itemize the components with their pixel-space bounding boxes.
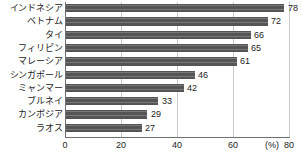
bar-row: ラオス 27 xyxy=(0,122,302,135)
bar-row: ベトナム 72 xyxy=(0,15,302,28)
bar-row: マレーシア 61 xyxy=(0,55,302,68)
bar-row: インドネシア 78 xyxy=(0,2,302,15)
bar-value-label: 42 xyxy=(187,82,197,95)
bar xyxy=(66,97,158,105)
bar-value-label: 78 xyxy=(288,2,298,15)
bar-value-label: 27 xyxy=(145,122,155,135)
category-label: フィリピン xyxy=(18,42,63,55)
bar-chart: インドネシア 78 ベトナム 72 タイ 66 フィリピン 65 マレーシア 6… xyxy=(0,0,302,157)
bar xyxy=(66,124,142,132)
category-label: ミャンマー xyxy=(18,82,63,95)
bar xyxy=(66,31,251,39)
bar-value-label: 29 xyxy=(151,108,161,121)
x-axis-unit-label: (%) xyxy=(265,140,279,150)
category-label: ベトナム xyxy=(27,15,63,28)
bar-value-label: 33 xyxy=(162,95,172,108)
bar-value-label: 66 xyxy=(254,29,264,42)
category-label: シンガポール xyxy=(10,69,63,82)
x-tick-label-80: 80 xyxy=(284,140,294,150)
category-label: インドネシア xyxy=(10,2,63,15)
category-label: タイ xyxy=(45,29,63,42)
bar-value-label: 61 xyxy=(240,55,250,68)
category-label: ブルネイ xyxy=(27,95,63,108)
x-tick-label-40: 40 xyxy=(172,140,182,150)
bar xyxy=(66,71,195,79)
bar xyxy=(66,17,268,25)
bar-value-label: 46 xyxy=(198,69,208,82)
category-label: ラオス xyxy=(36,122,63,135)
bar-row: ミャンマー 42 xyxy=(0,82,302,95)
bar-value-label: 65 xyxy=(251,42,261,55)
category-label: カンボジア xyxy=(18,108,63,121)
bar-row: カンボジア 29 xyxy=(0,108,302,121)
bar xyxy=(66,84,184,92)
bar-rows: インドネシア 78 ベトナム 72 タイ 66 フィリピン 65 マレーシア 6… xyxy=(0,0,302,137)
bar-row: フィリピン 65 xyxy=(0,42,302,55)
bar xyxy=(66,110,147,118)
bar xyxy=(66,44,248,52)
x-axis-line xyxy=(65,137,290,138)
bar-row: ブルネイ 33 xyxy=(0,95,302,108)
category-label: マレーシア xyxy=(18,55,63,68)
x-tick-label-20: 20 xyxy=(116,140,126,150)
x-tick-label-0: 0 xyxy=(62,140,67,150)
bar-row: シンガポール 46 xyxy=(0,69,302,82)
bar xyxy=(66,4,284,12)
x-tick-label-60: 60 xyxy=(228,140,238,150)
bar-value-label: 72 xyxy=(271,15,281,28)
bar xyxy=(66,57,237,65)
bar-row: タイ 66 xyxy=(0,29,302,42)
